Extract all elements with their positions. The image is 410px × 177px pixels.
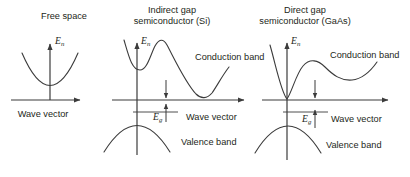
conduction-band-label-direct: Conduction band: [330, 50, 399, 60]
band-structure-figure: Free space En Wave vector Indirect gap s…: [0, 0, 410, 177]
panel-title-direct-line2: semiconductor (GaAs): [259, 16, 350, 26]
band-diagram-svg: Free space En Wave vector Indirect gap s…: [0, 0, 410, 177]
valence-band-curve-direct: [255, 126, 321, 153]
x-axis-label-direct: Wave vector: [331, 114, 382, 124]
panel-title-indirect-line2: semiconductor (Si): [134, 16, 211, 26]
x-axis-label-free-space: Wave vector: [18, 109, 69, 119]
panel-indirect-gap-si: Indirect gap semiconductor (Si) En Eg Wa…: [104, 5, 264, 155]
valence-band-label-indirect: Valence band: [181, 137, 237, 147]
panel-title-direct-line1: Direct gap: [284, 5, 326, 15]
conduction-band-curve-indirect: [124, 40, 229, 98]
panel-free-space: Free space En Wave vector: [11, 11, 87, 119]
gap-label-indirect: Eg: [152, 111, 163, 123]
gap-label-direct: Eg: [301, 113, 312, 125]
x-axis-label-indirect: Wave vector: [186, 112, 237, 122]
panel-title-indirect-line1: Indirect gap: [148, 5, 196, 15]
y-axis-label-indirect: En: [140, 35, 151, 47]
valence-band-label-direct: Valence band: [326, 140, 382, 150]
y-axis-label-direct: En: [290, 35, 301, 47]
y-axis-label-free-space: En: [54, 35, 65, 47]
conduction-band-label-indirect: Conduction band: [195, 52, 264, 62]
panel-direct-gap-gaas: Direct gap semiconductor (GaAs) En Eg Wa…: [255, 5, 399, 160]
panel-title-free-space: Free space: [41, 11, 87, 21]
